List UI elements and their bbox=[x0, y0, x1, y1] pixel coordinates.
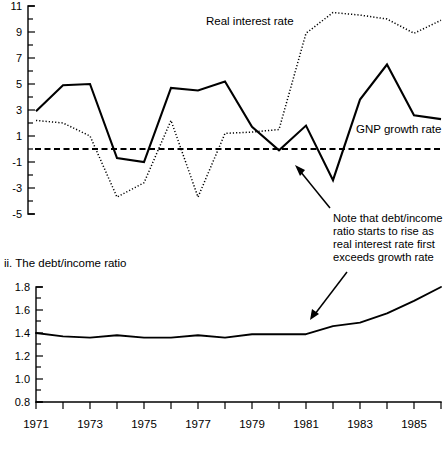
bottom-y-tick-label: 1.2 bbox=[15, 350, 30, 362]
figure-container: 11 9 7 5 3 1 -1 -3 -5 bbox=[0, 0, 445, 454]
bottom-y-tick-label: 1.8 bbox=[15, 281, 30, 293]
top-y-axis-ticks bbox=[28, 6, 35, 214]
series-label-real-interest-rate: Real interest rate bbox=[206, 15, 294, 27]
bottom-y-tick-label: 0.8 bbox=[15, 396, 30, 408]
x-tick-label-year: 1981 bbox=[293, 418, 319, 430]
top-y-tick-label: 1 bbox=[16, 130, 22, 142]
bottom-y-tick-label: 1.6 bbox=[15, 304, 30, 316]
x-tick-label-year: 1977 bbox=[185, 418, 211, 430]
annotation-line: exceeds growth rate bbox=[333, 251, 434, 263]
x-tick-label-year: 1973 bbox=[77, 418, 103, 430]
bottom-panel: ii. The debt/income ratio 1.8 1.6 1.4 1.… bbox=[4, 257, 441, 430]
annotation-arrow-up-icon bbox=[295, 165, 330, 208]
bottom-y-axis-labels: 1.8 1.6 1.4 1.2 1.0 0.8 bbox=[15, 281, 30, 408]
top-y-tick-label: 11 bbox=[11, 0, 22, 12]
top-y-tick-label: -3 bbox=[12, 182, 22, 194]
bottom-x-axis-labels: 1971 1973 1975 1977 1979 1981 1983 1985 bbox=[23, 418, 427, 430]
x-tick-label-year: 1979 bbox=[239, 418, 265, 430]
series-label-gnp-growth-rate: GNP growth rate bbox=[356, 123, 441, 135]
bottom-x-axis-ticks bbox=[36, 402, 441, 409]
x-tick-label-year: 1971 bbox=[23, 418, 49, 430]
annotation-line: real interest rate first bbox=[333, 238, 436, 250]
chart-svg: 11 9 7 5 3 1 -1 -3 -5 bbox=[0, 0, 445, 454]
series-debt-income-ratio bbox=[36, 287, 441, 338]
x-tick-label-year: 1975 bbox=[131, 418, 157, 430]
bottom-panel-title: ii. The debt/income ratio bbox=[4, 257, 127, 269]
top-y-tick-label: 7 bbox=[16, 52, 22, 64]
annotation-line: Note that debt/income bbox=[333, 212, 442, 224]
top-y-tick-label: 3 bbox=[16, 104, 22, 116]
top-y-tick-label: -5 bbox=[12, 208, 22, 220]
annotation-arrow-down-icon bbox=[310, 272, 347, 320]
top-panel: 11 9 7 5 3 1 -1 -3 -5 bbox=[11, 0, 443, 220]
x-tick-label-year: 1983 bbox=[347, 418, 373, 430]
top-y-tick-label: -1 bbox=[12, 156, 22, 168]
top-y-tick-label: 5 bbox=[16, 78, 22, 90]
annotation-line: ratio starts to rise as bbox=[333, 225, 434, 237]
top-y-tick-label: 9 bbox=[16, 26, 22, 38]
x-tick-label-year: 1985 bbox=[401, 418, 427, 430]
bottom-y-axis-ticks bbox=[36, 287, 43, 402]
bottom-y-tick-label: 1.4 bbox=[15, 327, 30, 339]
bottom-y-tick-label: 1.0 bbox=[15, 373, 30, 385]
top-y-axis-labels: 11 9 7 5 3 1 -1 -3 -5 bbox=[11, 0, 22, 220]
